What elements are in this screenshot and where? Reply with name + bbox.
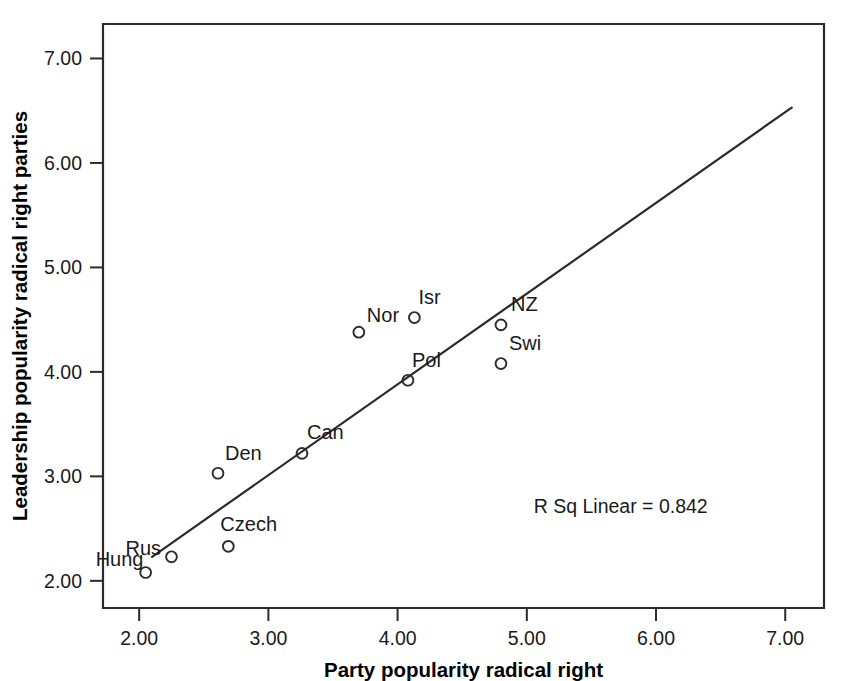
data-point-labels: HungRusCzechDenCanPolNorIsrNZSwi xyxy=(96,286,542,571)
x-axis-title: Party popularity radical right xyxy=(324,658,603,681)
point-label-can: Can xyxy=(307,421,344,443)
x-tick-label: 3.00 xyxy=(249,627,287,649)
point-label-swi: Swi xyxy=(509,332,541,354)
point-label-nor: Nor xyxy=(367,304,400,326)
axes-frame xyxy=(103,24,824,608)
data-point-swi[interactable] xyxy=(496,358,507,369)
y-tick-label: 7.00 xyxy=(44,47,82,69)
x-tick-label: 7.00 xyxy=(766,627,804,649)
point-label-pol: Pol xyxy=(412,349,441,371)
point-label-den: Den xyxy=(225,442,262,464)
data-point-nor[interactable] xyxy=(353,327,364,338)
r-squared-annotation: R Sq Linear = 0.842 xyxy=(534,495,708,517)
y-axis-title: Leadership popularity radical right part… xyxy=(8,111,31,521)
scatter-plot-figure: 2.003.004.005.006.007.00 2.003.004.005.0… xyxy=(0,0,842,681)
x-axis-tick-labels: 2.003.004.005.006.007.00 xyxy=(120,627,804,649)
y-tick-label: 3.00 xyxy=(44,465,82,487)
data-point-nz[interactable] xyxy=(496,319,507,330)
y-axis-ticks xyxy=(90,58,103,580)
data-points xyxy=(140,312,506,578)
point-label-isr: Isr xyxy=(418,286,441,308)
x-tick-label: 2.00 xyxy=(120,627,158,649)
data-point-den[interactable] xyxy=(213,468,224,479)
x-tick-label: 4.00 xyxy=(379,627,417,649)
linear-fit-line xyxy=(152,108,792,557)
y-tick-label: 5.00 xyxy=(44,256,82,278)
x-tick-label: 6.00 xyxy=(637,627,675,649)
data-point-czech[interactable] xyxy=(223,541,234,552)
y-tick-label: 6.00 xyxy=(44,152,82,174)
y-tick-label: 2.00 xyxy=(44,570,82,592)
plot-canvas: 2.003.004.005.006.007.00 2.003.004.005.0… xyxy=(0,0,842,681)
data-point-rus[interactable] xyxy=(166,551,177,562)
x-tick-label: 5.00 xyxy=(508,627,546,649)
data-point-isr[interactable] xyxy=(409,312,420,323)
regression-line xyxy=(152,108,792,557)
y-axis-tick-labels: 2.003.004.005.006.007.00 xyxy=(44,47,82,591)
x-axis-ticks xyxy=(139,608,785,621)
point-label-nz: NZ xyxy=(511,293,538,315)
point-label-rus: Rus xyxy=(125,537,161,559)
plot-frame xyxy=(103,24,824,608)
point-label-czech: Czech xyxy=(220,513,277,535)
y-tick-label: 4.00 xyxy=(44,361,82,383)
